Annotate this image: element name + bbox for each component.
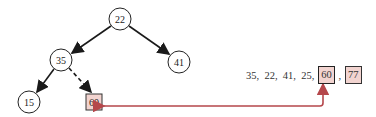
tree-node-60: 60 — [86, 94, 102, 110]
sequence-item-77: 77 — [345, 66, 362, 84]
sequence-item-60: 60 — [318, 66, 335, 84]
edge-22-35 — [72, 26, 111, 53]
svg-text:60: 60 — [89, 97, 99, 108]
svg-text:41: 41 — [174, 57, 184, 68]
tree-node-15: 15 — [18, 91, 40, 113]
tree-node-41: 41 — [168, 51, 190, 73]
insertion-sequence: 35, 22, 41, 25, 60 , 77 — [246, 66, 363, 84]
sequence-plain-values: 35, 22, 41, 25, — [246, 70, 317, 81]
edge-22-41 — [129, 26, 169, 54]
edge-35-15 — [37, 69, 54, 92]
svg-text:15: 15 — [24, 97, 34, 108]
sequence-separator: , — [336, 70, 344, 81]
tree-node-35: 35 — [50, 49, 72, 71]
link-arrow — [104, 84, 323, 106]
tree-node-22: 22 — [109, 8, 131, 30]
edge-35-60-dashed — [69, 68, 91, 92]
svg-text:22: 22 — [115, 14, 125, 25]
tree-diagram: 22 35 41 15 60 — [0, 0, 376, 117]
svg-text:35: 35 — [56, 55, 66, 66]
